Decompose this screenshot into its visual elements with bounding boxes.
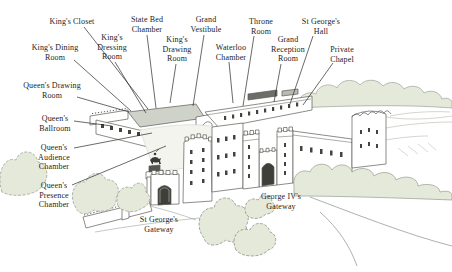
label-george-iv-gateway: George IV'sGateway (261, 192, 301, 211)
label-text-queens-ballroom: Queen'sBallroom (39, 114, 71, 133)
label-text-waterloo-chamber: WaterlooChamber (216, 43, 247, 62)
label-text-state-bed-chamber: State BedChamber (131, 15, 163, 34)
label-text-private-chapel: PrivateChapel (330, 45, 354, 64)
gateway-arch (262, 163, 274, 186)
label-text-george-iv-gateway: George IV'sGateway (261, 192, 301, 211)
castle-illustration: King's ClosetState BedChamberGrandVestib… (0, 0, 452, 272)
st-georges-gateway-structure (147, 171, 179, 206)
label-text-queens-audience-chamber: Queen'sAudienceChamber (38, 143, 70, 171)
label-text-queens-presence-chamber: Queen'sPresenceChamber (39, 181, 70, 209)
label-text-st-georges-gateway: St George'sGateway (140, 215, 178, 234)
castle-diagram: King's ClosetState BedChamberGrandVestib… (0, 0, 452, 272)
label-st-georges-gateway: St George'sGateway (140, 215, 178, 234)
label-text-throne-room: ThroneRoom (249, 17, 273, 36)
round-tower (183, 134, 212, 203)
label-text-kings-closet: King's Closet (50, 17, 96, 26)
east-range-left (212, 123, 243, 192)
corner-tower (352, 111, 391, 168)
